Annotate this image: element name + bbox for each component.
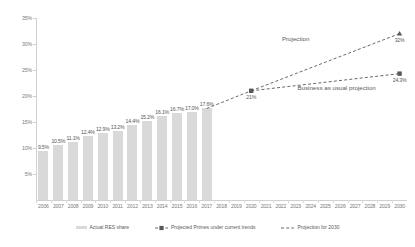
x-axis-tick-mark: [259, 200, 260, 203]
annotation-label: Projection: [268, 35, 324, 42]
y-axis-tick: 25%: [2, 67, 32, 73]
legend-label: Projection for 2030: [297, 224, 339, 230]
legend-item: Projected Primes under current trends: [155, 224, 255, 230]
y-axis-tick: 5%: [2, 171, 32, 177]
y-axis-tick: 30%: [2, 41, 32, 47]
annotation-label: Business as usual projection: [297, 84, 353, 91]
bar-value-label: 11.1%: [65, 135, 81, 141]
bar-value-label: 9.5%: [35, 144, 51, 150]
bar: [53, 145, 63, 200]
bar-value-label: 16.7%: [169, 106, 185, 112]
y-axis-tick: 35%: [2, 15, 32, 21]
x-axis-tick-mark: [214, 200, 215, 203]
bar: [157, 116, 167, 200]
bar: [142, 121, 152, 200]
line-point-label: 24.3%: [392, 77, 408, 83]
bar: [127, 125, 137, 200]
bar: [38, 151, 48, 200]
x-axis-tick-mark: [51, 200, 52, 203]
bar: [68, 142, 78, 200]
x-axis-tick-mark: [170, 200, 171, 203]
x-axis-tick-mark: [392, 200, 393, 203]
x-axis-tick-mark: [199, 200, 200, 203]
x-axis-tick-mark: [303, 200, 304, 203]
bar-value-label: 16.1%: [154, 109, 170, 115]
x-axis-tick-mark: [288, 200, 289, 203]
bar-value-label: 17.0%: [184, 105, 200, 111]
x-axis-tick-mark: [66, 200, 67, 203]
legend-label: Projected Primes under current trends: [171, 224, 255, 230]
bar: [172, 113, 182, 200]
y-axis-tick: 15%: [2, 119, 32, 125]
x-axis-tick-mark: [333, 200, 334, 203]
bar: [187, 112, 197, 200]
x-axis-tick-mark: [95, 200, 96, 203]
x-axis-tick-mark: [125, 200, 126, 203]
x-axis-tick-mark: [377, 200, 378, 203]
legend-dashed-square-icon: [155, 225, 168, 230]
x-axis-tick: 2030: [391, 203, 409, 209]
x-axis-tick-mark: [318, 200, 319, 203]
x-axis-tick-mark: [348, 200, 349, 203]
bar: [83, 136, 93, 200]
line-point-label: 21%: [243, 94, 259, 100]
x-axis-tick-mark: [110, 200, 111, 203]
x-axis-tick-mark: [184, 200, 185, 203]
x-axis-tick-mark: [36, 200, 37, 203]
y-axis-tick: 10%: [2, 145, 32, 151]
bar-value-label: 17.6%: [199, 101, 215, 107]
y-axis-tick: 20%: [2, 93, 32, 99]
bar: [113, 131, 123, 200]
legend-item: Projection for 2030: [281, 224, 339, 230]
bar-value-label: 12.4%: [80, 129, 96, 135]
legend-item: Actual RES share: [76, 224, 129, 230]
bar-value-label: 10.5%: [50, 138, 66, 144]
legend-dashed-triangle-icon: [281, 225, 294, 230]
bar-series-actual-res-share: [36, 18, 407, 200]
res-share-projection-chart: 35%30%25%20%15%10%5% 2006200720082009201…: [0, 0, 415, 247]
x-axis-tick-mark: [273, 200, 274, 203]
legend-label: Actual RES share: [90, 224, 129, 230]
x-axis-tick-mark: [140, 200, 141, 203]
x-axis-tick-mark: [244, 200, 245, 203]
bar: [202, 108, 212, 200]
bar: [98, 133, 108, 200]
bar-value-label: 13.2%: [110, 124, 126, 130]
bar-value-label: 14.4%: [124, 118, 140, 124]
line-point-label: 32%: [392, 37, 408, 43]
legend-bar-swatch: [76, 226, 87, 229]
x-axis-line: [36, 200, 407, 201]
chart-legend: Actual RES shareProjected Primes under c…: [0, 224, 415, 230]
x-axis-tick-mark: [362, 200, 363, 203]
x-axis-tick-mark: [229, 200, 230, 203]
x-axis-tick-mark: [81, 200, 82, 203]
bar-value-label: 12.9%: [95, 126, 111, 132]
bar-value-label: 15.2%: [139, 114, 155, 120]
x-axis-tick-mark: [155, 200, 156, 203]
